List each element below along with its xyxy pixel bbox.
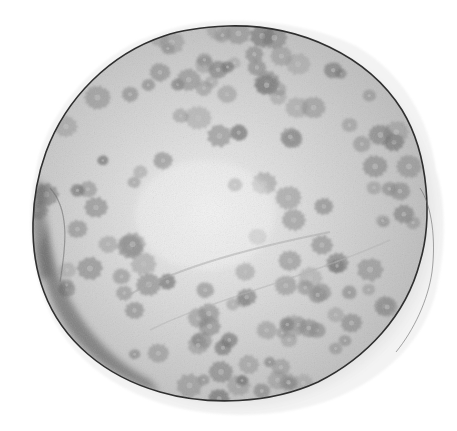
photo-frame	[0, 0, 457, 431]
fossil-coral-photo	[0, 0, 457, 431]
